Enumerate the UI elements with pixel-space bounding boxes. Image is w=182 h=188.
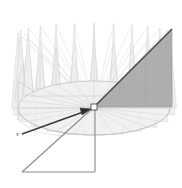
geometry-diagram: v [0, 0, 182, 188]
spike [36, 26, 44, 89]
geometric-figure-container: v [0, 0, 182, 188]
vector-label-v: v [16, 130, 20, 138]
spike [23, 28, 33, 95]
apex-marker [91, 104, 97, 110]
